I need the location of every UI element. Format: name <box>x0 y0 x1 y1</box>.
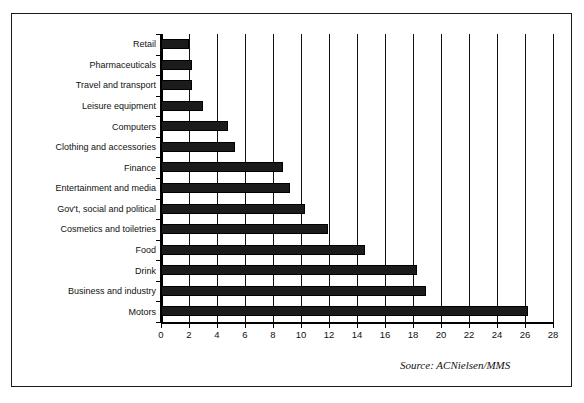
bar-cosmetics-and-toiletries <box>161 224 328 234</box>
bar-computers <box>161 121 228 131</box>
x-axis-tick <box>161 323 162 328</box>
y-axis-tick <box>156 157 160 158</box>
bar-row <box>161 55 553 77</box>
x-axis-tick <box>329 323 330 328</box>
bar-row <box>161 75 553 97</box>
y-axis-tick <box>156 301 160 302</box>
bar-pharmaceuticals <box>161 60 192 70</box>
x-axis-label: 12 <box>314 329 344 340</box>
y-axis-tick <box>156 260 160 261</box>
x-axis-label: 8 <box>258 329 288 340</box>
bar-travel-and-transport <box>161 80 192 90</box>
bar-row <box>161 137 553 159</box>
y-axis-tick <box>156 55 160 56</box>
bar-food <box>161 245 365 255</box>
x-axis-tick <box>413 323 414 328</box>
x-axis-label: 2 <box>174 329 204 340</box>
y-axis-label: Leisure equipment <box>20 101 156 111</box>
x-axis-label: 0 <box>146 329 176 340</box>
bar-row <box>161 301 553 323</box>
y-axis-tick <box>156 178 160 179</box>
x-axis-label: 22 <box>454 329 484 340</box>
x-axis-label: 18 <box>398 329 428 340</box>
bar-row <box>161 34 553 56</box>
y-axis-label: Finance <box>20 163 156 173</box>
x-axis-label: 14 <box>342 329 372 340</box>
y-axis-label: Pharmaceuticals <box>20 60 156 70</box>
bars-layer <box>161 34 553 322</box>
x-axis-tick <box>245 323 246 328</box>
x-axis-tick <box>273 323 274 328</box>
chart-title <box>0 0 584 1</box>
bar-motors <box>161 306 528 316</box>
x-axis-tick <box>189 323 190 328</box>
bar-business-and-industry <box>161 286 426 296</box>
y-axis-label: Retail <box>20 39 156 49</box>
x-axis-label: 20 <box>426 329 456 340</box>
y-axis-label: Entertainment and media <box>20 183 156 193</box>
gridline-28 <box>553 34 554 322</box>
x-axis-label: 6 <box>230 329 260 340</box>
y-axis-label: Drink <box>20 266 156 276</box>
bar-finance <box>161 162 283 172</box>
bar-row <box>161 178 553 200</box>
x-axis-label: 28 <box>538 329 568 340</box>
y-axis-label: Gov't, social and political <box>20 204 156 214</box>
y-axis-label: Business and industry <box>20 286 156 296</box>
y-axis-tick <box>156 240 160 241</box>
x-axis-tick <box>525 323 526 328</box>
y-axis-label: Food <box>20 245 156 255</box>
y-axis-tick <box>156 199 160 200</box>
bar-row <box>161 240 553 262</box>
y-axis-label: Cosmetics and toiletries <box>20 224 156 234</box>
y-axis-tick <box>156 322 160 323</box>
bar-row <box>161 260 553 282</box>
x-axis-tick <box>469 323 470 328</box>
y-axis-label: Computers <box>20 122 156 132</box>
bar-row <box>161 199 553 221</box>
y-axis-tick <box>156 219 160 220</box>
x-axis-tick <box>553 323 554 328</box>
bar-drink <box>161 265 417 275</box>
y-axis-label: Clothing and accessories <box>20 142 156 152</box>
y-axis-line <box>160 34 162 323</box>
x-axis-tick <box>217 323 218 328</box>
y-axis-tick <box>156 281 160 282</box>
y-axis-tick <box>156 96 160 97</box>
bar-row <box>161 157 553 179</box>
bar-retail <box>161 39 189 49</box>
bar-row <box>161 281 553 303</box>
x-axis-label: 26 <box>510 329 540 340</box>
bar-row <box>161 116 553 138</box>
x-axis-tick <box>497 323 498 328</box>
bar-entertainment-and-media <box>161 183 290 193</box>
x-axis-tick <box>441 323 442 328</box>
x-axis-tick <box>385 323 386 328</box>
y-axis-labels: RetailPharmaceuticalsTravel and transpor… <box>20 34 156 322</box>
x-axis-label: 4 <box>202 329 232 340</box>
y-axis-tick <box>156 34 160 35</box>
x-axis-tick <box>357 323 358 328</box>
x-axis-label: 24 <box>482 329 512 340</box>
x-axis-label: 16 <box>370 329 400 340</box>
y-axis-label: Motors <box>20 307 156 317</box>
y-axis-tick <box>156 116 160 117</box>
y-axis-label: Travel and transport <box>20 80 156 90</box>
source-note: Source: ACNielsen/MMS <box>400 359 510 371</box>
bar-row <box>161 219 553 241</box>
x-axis-tick <box>301 323 302 328</box>
y-axis-tick <box>156 137 160 138</box>
bar-row <box>161 96 553 118</box>
bar-gov-t-social-and-political <box>161 204 305 214</box>
y-axis-tick <box>156 75 160 76</box>
bar-clothing-and-accessories <box>161 142 235 152</box>
bar-leisure-equipment <box>161 101 203 111</box>
x-axis-label: 10 <box>286 329 316 340</box>
